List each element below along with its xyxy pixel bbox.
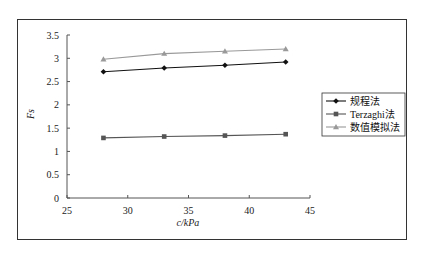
diamond-marker-icon [283, 59, 289, 65]
square-marker-icon [223, 133, 228, 138]
diamond-marker-icon [222, 62, 228, 68]
axes: 00.511.522.533.52530354045 [47, 30, 316, 217]
x-tick-label: 45 [305, 205, 315, 216]
series-2 [101, 132, 288, 140]
diamond-marker-icon [101, 69, 107, 75]
legend: 规程法Terzaghi法数值模拟法 [322, 93, 405, 136]
y-tick-label: 3 [54, 53, 59, 64]
x-tick-label: 25 [62, 205, 72, 216]
y-tick-label: 2.5 [47, 76, 60, 87]
series-line [103, 62, 285, 72]
square-marker-icon [283, 132, 288, 137]
legend-label: 数值模拟法 [350, 121, 400, 133]
series-group [100, 46, 288, 140]
x-axis-label: c/kPa [177, 217, 200, 228]
series-1 [101, 59, 289, 74]
y-tick-label: 1 [54, 146, 59, 157]
legend-label: 规程法 [350, 95, 380, 107]
y-axis-label: Fs [25, 109, 36, 120]
x-tick-label: 35 [184, 205, 194, 216]
y-tick-label: 0.5 [47, 169, 60, 180]
diamond-marker-icon [161, 65, 167, 71]
y-tick-label: 1.5 [47, 123, 60, 134]
x-tick-label: 30 [123, 205, 133, 216]
y-tick-label: 2 [54, 99, 59, 110]
y-tick-label: 3.5 [47, 30, 60, 41]
x-tick-label: 40 [244, 205, 254, 216]
square-marker-icon [101, 136, 106, 141]
square-marker-icon [334, 112, 339, 117]
legend-label: Terzaghi法 [350, 108, 395, 120]
series-line [103, 134, 285, 138]
square-marker-icon [162, 134, 167, 139]
y-tick-label: 0 [54, 193, 59, 204]
series-3 [100, 46, 288, 61]
line-chart: 00.511.522.533.52530354045 规程法Terzaghi法数… [0, 0, 427, 259]
series-line [103, 49, 285, 59]
